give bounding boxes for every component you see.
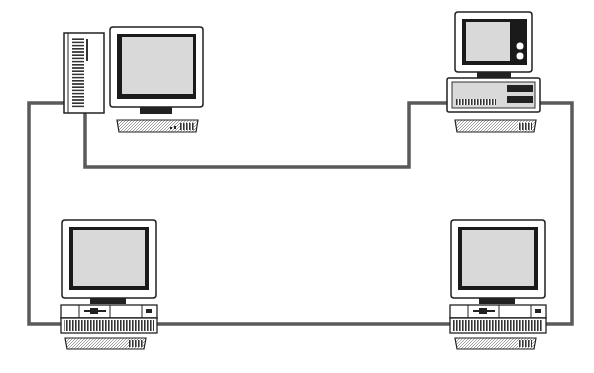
monitor-icon — [110, 27, 203, 114]
cable-left — [29, 103, 64, 324]
monitor-icon — [62, 220, 156, 304]
keyboard-icon — [117, 120, 198, 132]
workstation-top-right — [447, 12, 540, 132]
cable-top — [85, 103, 447, 167]
desktop-cpu-icon — [61, 305, 157, 333]
monitor-icon — [455, 12, 532, 78]
keyboard-icon — [65, 338, 146, 349]
desktop-cpu-icon — [450, 305, 546, 333]
workstation-bottom-left — [61, 220, 157, 349]
monitor-icon — [451, 220, 545, 304]
tower-case-icon — [64, 33, 104, 113]
keyboard-icon — [455, 120, 536, 132]
workstation-bottom-right — [450, 220, 546, 349]
desktop-cpu-icon — [447, 78, 540, 112]
network-diagram — [0, 0, 594, 373]
keyboard-icon — [455, 338, 536, 349]
